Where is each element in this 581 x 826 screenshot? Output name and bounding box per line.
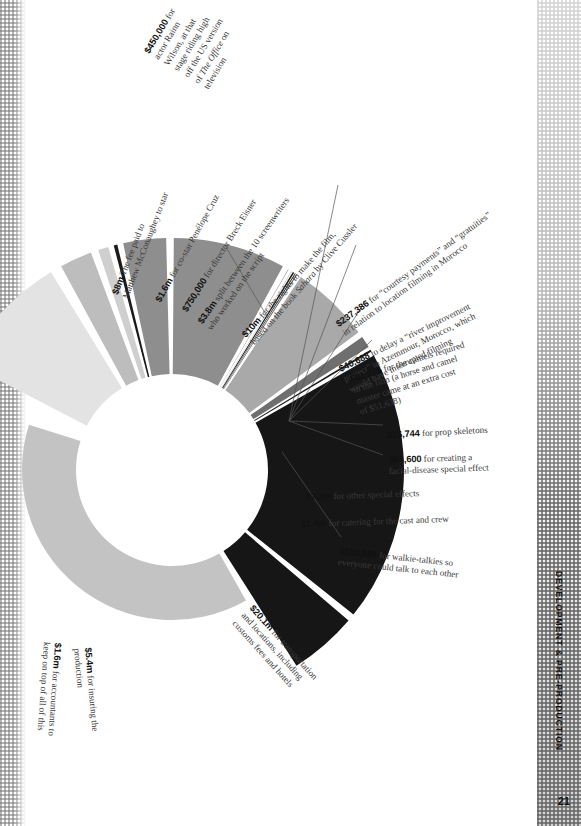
callout-facial-disease-fx: $54,600 for creating a facial-disease sp… xyxy=(388,437,569,478)
chart-slice xyxy=(22,425,246,620)
callout-amount: $16,744 xyxy=(387,428,420,440)
callout-text: for catering for the cast and crew xyxy=(326,513,449,527)
callout-amount: $1.4m xyxy=(300,518,326,529)
callout-amount: $1.6m xyxy=(52,642,64,669)
callout-text: for other special effects xyxy=(331,488,419,501)
callout-text: for prop skeletons xyxy=(419,424,487,438)
callout-amount: $5.4m xyxy=(83,647,95,674)
callout-amount: $7.3m xyxy=(305,491,331,502)
callout-amount: $54,600 xyxy=(388,453,421,464)
